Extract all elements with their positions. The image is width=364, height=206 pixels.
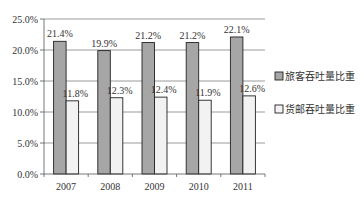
bar-cargo xyxy=(199,100,212,174)
legend-swatch-cargo xyxy=(275,105,283,113)
bar-passenger xyxy=(142,43,155,174)
y-tick-label: 25.0% xyxy=(12,14,38,25)
legend-label: 货邮吞吐量比重 xyxy=(285,103,355,115)
x-tick-label: 2011 xyxy=(233,181,253,192)
bar-passenger xyxy=(186,43,199,174)
data-label: 12.3% xyxy=(107,85,133,96)
data-label: 19.9% xyxy=(91,38,117,49)
bar-cargo xyxy=(243,96,256,174)
bar-cargo xyxy=(155,97,168,174)
bar-chart: 0.0%5.0%10.0%15.0%20.0%25.0% 21.4%11.8%1… xyxy=(0,0,364,206)
y-tick-label: 0.0% xyxy=(17,169,38,180)
data-label: 21.2% xyxy=(180,30,206,41)
x-tick-label: 2009 xyxy=(145,181,165,192)
legend: 旅客吞吐量比重货邮吞吐量比重 xyxy=(275,70,355,115)
legend-label: 旅客吞吐量比重 xyxy=(285,70,355,82)
x-tick-label: 2010 xyxy=(189,181,209,192)
x-axis: 20072008200920102011 xyxy=(44,174,265,192)
data-label: 11.8% xyxy=(63,88,88,99)
bar-cargo xyxy=(66,101,79,174)
y-tick-label: 20.0% xyxy=(12,45,38,56)
bar-passenger xyxy=(98,51,111,174)
bars: 21.4%11.8%19.9%12.3%21.2%12.4%21.2%11.9%… xyxy=(47,24,265,174)
data-label: 11.9% xyxy=(195,87,220,98)
y-tick-label: 10.0% xyxy=(12,107,38,118)
bar-passenger xyxy=(230,37,243,174)
data-label: 21.2% xyxy=(135,30,161,41)
x-tick-label: 2007 xyxy=(56,181,76,192)
data-label: 22.1% xyxy=(224,24,250,35)
y-tick-label: 5.0% xyxy=(17,138,38,149)
data-label: 12.6% xyxy=(239,83,265,94)
data-label: 12.4% xyxy=(151,84,177,95)
y-axis: 0.0%5.0%10.0%15.0%20.0%25.0% xyxy=(12,14,44,180)
bar-cargo xyxy=(110,98,123,174)
y-tick-label: 15.0% xyxy=(12,76,38,87)
legend-swatch-passenger xyxy=(275,72,283,80)
x-tick-label: 2008 xyxy=(100,181,120,192)
data-label: 21.4% xyxy=(47,28,73,39)
bar-passenger xyxy=(54,41,67,174)
